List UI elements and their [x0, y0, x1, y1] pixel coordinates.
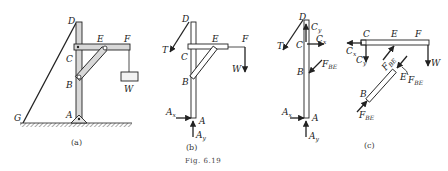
cable-dg: [23, 23, 76, 123]
label-cy: Cy: [311, 22, 322, 34]
label-c: C: [363, 29, 370, 39]
label-d: D: [67, 16, 75, 26]
beam-cf: [188, 44, 228, 49]
label-ay: Ay: [195, 130, 207, 142]
label-b: B: [359, 89, 367, 99]
caption-c: (c): [364, 141, 375, 150]
label-f: F: [414, 29, 422, 39]
figure-6-19: D E F C B W G A (a) D E F C B A T W Ax A…: [0, 0, 448, 171]
label-cy: Cy: [356, 55, 367, 67]
subfigure-a: D E F C B W G A (a): [14, 16, 138, 147]
subfigure-c: D C B A T Cy Cx FBE Ax Ay C E F Cx Cy FB…: [277, 12, 441, 150]
label-e: E: [96, 34, 104, 44]
label-t: T: [277, 41, 284, 51]
label-w: W: [232, 64, 242, 74]
label-t: T: [162, 45, 169, 55]
subfigure-b: D E F C B A T W Ax Ay (b) Fig. 6.19: [162, 14, 249, 165]
pin-a: [78, 118, 80, 120]
label-ay: Ay: [308, 131, 320, 143]
label-a: A: [198, 116, 206, 126]
label-e: E: [390, 29, 398, 39]
force-fbe-e-arrow: [397, 56, 407, 68]
label-w: W: [124, 84, 134, 94]
label-cx: Cx: [316, 34, 327, 45]
label-fbe: FBE: [379, 54, 398, 74]
weight-block: [121, 72, 138, 81]
label-ax: Ax: [281, 107, 293, 118]
label-e: E: [211, 34, 219, 44]
label-c: C: [181, 52, 188, 62]
caption-a: (a): [71, 138, 82, 147]
force-t-arrow: [170, 22, 189, 52]
label-b: B: [181, 77, 189, 87]
brace-be-fbd: [366, 69, 396, 102]
label-fbe-b: FBE: [358, 110, 375, 121]
label-w: W: [431, 58, 441, 68]
label-d: D: [298, 12, 306, 22]
force-fbe-arrow: [309, 60, 322, 73]
label-fbe-e: FBE: [407, 75, 424, 86]
ground-hatch: [20, 123, 132, 127]
pin-c: [77, 46, 79, 48]
label-a: A: [65, 110, 73, 120]
label-e: E: [399, 72, 407, 82]
label-a: A: [311, 113, 319, 123]
label-b: B: [296, 67, 304, 77]
beam-cf-fbd: [361, 40, 429, 45]
label-b: B: [65, 80, 73, 90]
label-f: F: [241, 34, 249, 44]
pin-e: [103, 46, 107, 50]
label-c: C: [66, 54, 73, 64]
pin-b: [77, 75, 81, 79]
label-c: C: [296, 40, 303, 50]
label-fbe: FBE: [321, 59, 338, 70]
caption-b: (b): [186, 143, 197, 152]
label-f: F: [123, 34, 131, 44]
label-g: G: [14, 113, 21, 123]
label-d: D: [181, 14, 189, 24]
label-ax: Ax: [165, 107, 177, 118]
figure-caption: Fig. 6.19: [185, 157, 221, 165]
